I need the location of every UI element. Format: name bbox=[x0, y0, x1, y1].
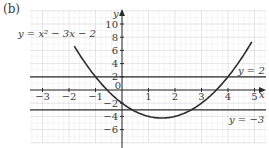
x-tick-label: 5 bbox=[251, 91, 257, 102]
y-tick-label: 8 bbox=[112, 32, 118, 43]
y-tick-label: 0 bbox=[115, 80, 121, 91]
x-tick-label: 2 bbox=[172, 91, 178, 102]
chart: −3−2−1123451086420−2−4−6 y = x² − 3x − 2… bbox=[0, 0, 269, 148]
curve-equation-label: y = x² − 3x − 2 bbox=[17, 28, 96, 39]
y-tick-label: 6 bbox=[112, 45, 118, 56]
x-tick-label: −2 bbox=[62, 91, 77, 102]
y-tick-label: −2 bbox=[103, 98, 118, 109]
x-axis-label: x bbox=[259, 89, 265, 100]
x-tick-label: 3 bbox=[198, 91, 204, 102]
y-axis-arrow-icon bbox=[119, 9, 125, 16]
x-tick-label: 4 bbox=[225, 91, 231, 102]
y-axis-label: y bbox=[112, 8, 119, 19]
y-tick-label: −6 bbox=[103, 124, 118, 135]
line-y-3-label: y = −3 bbox=[228, 114, 264, 125]
y-tick-label: −4 bbox=[103, 111, 118, 122]
x-tick-label: −3 bbox=[35, 91, 50, 102]
x-tick-label: 1 bbox=[145, 91, 151, 102]
x-tick-label: −1 bbox=[88, 91, 103, 102]
line-y2-label: y = 2 bbox=[237, 65, 265, 76]
y-tick-label: 10 bbox=[105, 19, 118, 30]
y-tick-label: 4 bbox=[112, 58, 118, 69]
